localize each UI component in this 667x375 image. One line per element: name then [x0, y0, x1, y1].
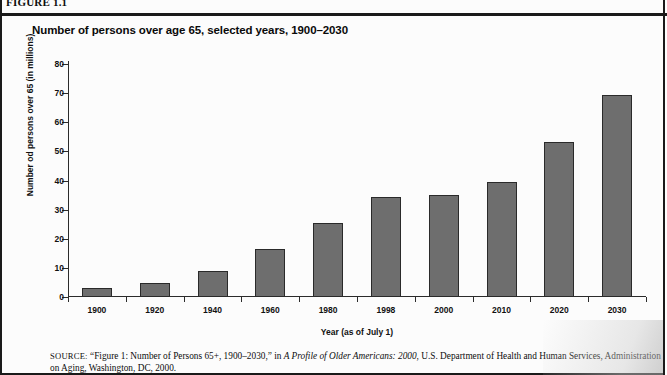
source-publication-title: A Profile of Older Americans: 2000 [284, 351, 417, 361]
x-axis-tick [588, 297, 589, 302]
bar [313, 223, 343, 297]
x-axis-tick [473, 297, 474, 302]
x-axis-title: Year (as of July 1) [68, 327, 646, 337]
bar [487, 182, 517, 297]
y-axis-title: Number od persons over 65 (in millions) [25, 25, 35, 205]
x-axis-tick [357, 297, 358, 302]
bar [602, 95, 632, 297]
y-axis-tick-label: 80 [55, 59, 64, 69]
x-axis-tick [415, 297, 416, 302]
x-axis-tick [299, 297, 300, 302]
x-axis-category-label: 1980 [319, 305, 338, 315]
source-text-a: “Figure 1: Number of Persons 65+, 1900–2… [88, 351, 284, 361]
y-axis-tick-label: 30 [55, 205, 64, 215]
y-axis-tick-label: 20 [55, 234, 64, 244]
bar [255, 249, 285, 297]
plot-area: 0102030405060708019001920194019601980199… [68, 64, 646, 297]
x-axis-tick [126, 297, 127, 302]
x-axis-tick [68, 297, 69, 302]
source-prefix: SOURCE: [50, 351, 88, 361]
bar [429, 195, 459, 297]
bar [198, 271, 228, 297]
y-axis-tick-label: 50 [55, 146, 64, 156]
x-axis-tick [530, 297, 531, 302]
x-axis-category-label: 2020 [550, 305, 569, 315]
source-note: SOURCE: “Figure 1: Number of Persons 65+… [50, 351, 662, 374]
x-axis-category-label: 1960 [261, 305, 280, 315]
bar [82, 288, 112, 297]
x-axis-category-label: 1900 [87, 305, 106, 315]
x-axis-tick [184, 297, 185, 302]
x-axis-category-label: 1940 [203, 305, 222, 315]
y-axis-tick-label: 40 [55, 176, 64, 186]
y-axis-tick-label: 0 [59, 292, 64, 302]
chart-plot-wrapper: Number od persons over 65 (in millions) … [2, 0, 667, 375]
x-axis-category-label: 1920 [145, 305, 164, 315]
x-axis-category-label: 2010 [492, 305, 511, 315]
y-axis-tick-label: 70 [55, 88, 64, 98]
x-axis-category-label: 2000 [434, 305, 453, 315]
source-text-b: , U.S. Department of Health and Human Se… [417, 351, 603, 361]
bar [371, 197, 401, 297]
x-axis-tick [241, 297, 242, 302]
bar [140, 283, 170, 297]
x-axis-tick [646, 297, 647, 302]
x-axis-category-label: 2030 [608, 305, 627, 315]
bar [544, 142, 574, 297]
y-axis-tick-label: 10 [55, 263, 64, 273]
bar-series [68, 64, 646, 297]
y-axis-tick-label: 60 [55, 117, 64, 127]
x-axis-category-label: 1998 [376, 305, 395, 315]
